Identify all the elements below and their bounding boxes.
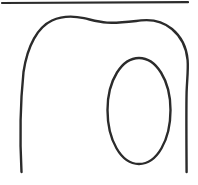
top-rule <box>2 2 188 3</box>
line-drawing-svg <box>0 0 198 185</box>
figure-canvas <box>0 0 198 185</box>
